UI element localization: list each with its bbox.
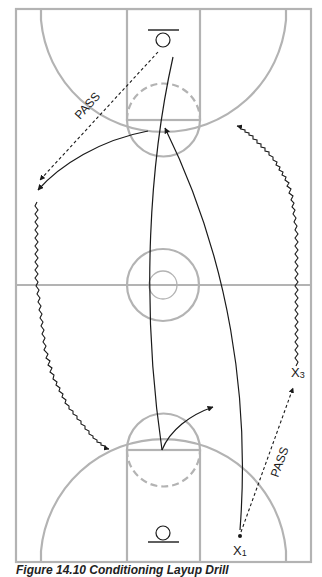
free-throw-circle-top-dashed (127, 83, 200, 120)
dribble-path-left-wing-to-bottom-basket (35, 202, 109, 449)
cut-path-top-lane-to-bottom-ft (150, 57, 173, 450)
pass-label-bottom: PASS (268, 445, 292, 479)
hoop-bottom (156, 526, 170, 540)
player-x1-label: X1 (233, 543, 247, 558)
dribble-path-x3-to-top-basket (237, 126, 298, 366)
free-throw-circle-bottom-dashed (127, 450, 200, 487)
sprint-path-x1-to-top-key (165, 128, 242, 530)
hoop-top (156, 33, 170, 47)
player-x3-label: X3 (291, 365, 305, 380)
lane-bottom (127, 450, 200, 562)
free-throw-circle-top-solid (127, 120, 200, 157)
player-x1-dot (238, 534, 242, 538)
figure-caption: Figure 14.10 Conditioning Layup Drill (16, 563, 229, 577)
three-point-arc-bottom (41, 439, 286, 562)
